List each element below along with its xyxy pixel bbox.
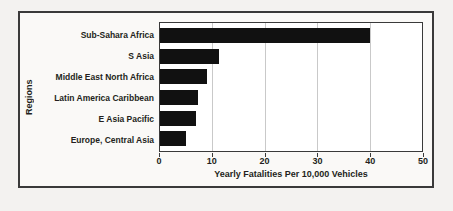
y-axis-tick-label: Sub-Sahara Africa [34,24,158,45]
y-axis-tick-label: E Asia Pacific [34,108,158,129]
bar-row [160,46,422,67]
chart-figure: Regions Sub-Sahara Africa S Asia Middle … [18,11,434,188]
bar-row [160,108,422,129]
bar [160,49,219,64]
x-axis-tick-label: 0 [156,156,161,166]
x-axis-ticks: 01020304050 [159,153,423,167]
x-axis-tick-label: 30 [312,156,322,166]
y-axis-tick-label: Europe, Central Asia [34,129,158,150]
x-axis-tick-label: 50 [418,156,428,166]
y-axis-tick-labels: Sub-Sahara Africa S Asia Middle East Nor… [34,24,158,150]
bar-row [160,66,422,87]
y-axis-tick-label: Latin America Caribbean [34,87,158,108]
bar [160,90,198,105]
x-axis-tick-label: 40 [365,156,375,166]
x-axis-tick-label: 10 [207,156,217,166]
bar [160,131,186,146]
bar [160,28,370,43]
bar [160,111,196,126]
x-axis-title: Yearly Fatalities Per 10,000 Vehicles [159,169,423,179]
y-axis-tick-label: S Asia [34,45,158,66]
bar-row [160,87,422,108]
bar [160,69,207,84]
x-axis-tick-label: 20 [260,156,270,166]
plot-area [159,22,423,152]
chart-plot-wrapper: Regions Sub-Sahara Africa S Asia Middle … [20,13,432,186]
bar-series [160,23,422,151]
bar-row [160,128,422,149]
y-axis-tick-label: Middle East North Africa [34,66,158,87]
bar-row [160,25,422,46]
